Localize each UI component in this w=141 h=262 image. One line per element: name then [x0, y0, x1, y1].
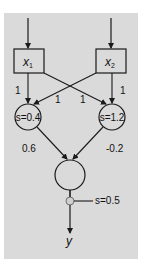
edge-h2-out — [73, 127, 103, 159]
edge-h1-out — [37, 127, 67, 159]
input-node-x2: x2 — [96, 49, 126, 73]
edge-x1-h2 — [44, 73, 106, 104]
hidden-node-2-threshold: s=1.2 — [100, 112, 125, 123]
hidden-node-1-threshold: s=0.4 — [16, 112, 41, 123]
hidden-node-1: s=0.4 — [15, 104, 41, 130]
threshold-node — [66, 197, 74, 205]
output-label-y: y — [65, 234, 73, 248]
input-node-x1: x1 — [14, 49, 44, 73]
weight-h2-out: -0.2 — [106, 143, 124, 154]
hidden-node-2: s=1.2 — [99, 104, 125, 130]
weight-x1-h1: 1 — [15, 85, 21, 96]
threshold-label: s=0.5 — [95, 195, 120, 206]
weight-x2-h1: 1 — [55, 94, 61, 105]
output-node — [55, 160, 85, 190]
weight-h1-out: 0.6 — [22, 143, 36, 154]
edge-x2-h1 — [34, 73, 96, 104]
weight-x1-h2: 1 — [80, 94, 86, 105]
weight-x2-h2: 1 — [120, 85, 126, 96]
neural-network-diagram: x1 x2 1 1 1 1 s=0.4 s=1.2 0.6 -0.2 s=0.5… — [0, 0, 141, 262]
